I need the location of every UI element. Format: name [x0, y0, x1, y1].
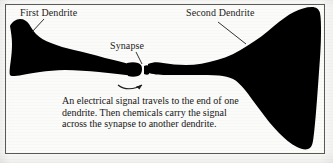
second-dendrite-leader-line — [218, 22, 246, 44]
label-second-dendrite: Second Dendrite — [186, 7, 254, 18]
dendrite-diagram-artwork — [0, 0, 333, 163]
figure-caption: An electrical signal travels to the end … — [62, 95, 247, 130]
postsynaptic-neck-shape — [144, 65, 149, 75]
figure-page: First Dendrite Second Dendrite Synapse A… — [0, 0, 333, 163]
presynaptic-terminal-shape — [127, 62, 142, 77]
synapse-leader-line — [136, 52, 142, 64]
signal-arrow-head — [136, 85, 142, 90]
first-dendrite-leader-line — [32, 19, 44, 32]
label-synapse: Synapse — [110, 40, 144, 51]
label-first-dendrite: First Dendrite — [20, 7, 77, 18]
